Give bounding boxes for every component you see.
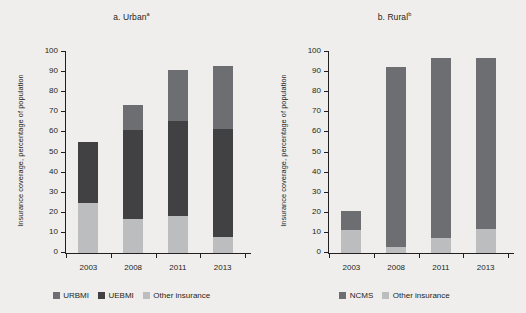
urban-x-tick-label-2011: 2011 (169, 263, 186, 272)
rural-x-tick-label-2011: 2011 (432, 263, 449, 272)
rural-y-tick-label: 10 (312, 227, 321, 236)
urban-y-axis-line (65, 52, 66, 253)
rural-x-tick (329, 253, 330, 258)
rural-y-tick: 40 (324, 172, 329, 173)
rural-bar-segment-other-insurance (431, 238, 451, 253)
urban-y-tick: 60 (61, 131, 66, 132)
rural-legend-item-ncms: NCMS (339, 291, 373, 300)
urban-bar-2011 (168, 70, 188, 253)
rural-x-tick-label-2013: 2013 (477, 263, 495, 272)
urban-x-tick (245, 253, 246, 258)
urban-y-tick: 10 (61, 232, 66, 233)
urban-y-tick-label: 40 (49, 167, 58, 176)
urban-bar-segment-urbmi (213, 66, 233, 129)
urban-legend-label: UEBMI (109, 291, 134, 300)
rural-y-tick-label: 40 (312, 167, 321, 176)
urban-y-tick: 30 (61, 192, 66, 193)
urban-bar-2013 (213, 66, 233, 253)
urban-x-tick (66, 253, 67, 258)
panel-urban: a. Urbana Insurance coverage, percentage… (0, 0, 263, 313)
rural-y-tick-label: 60 (312, 126, 321, 135)
rural-y-tick: 60 (324, 131, 329, 132)
urban-x-tick (156, 253, 157, 258)
rural-bar-segment-other-insurance (341, 230, 361, 253)
urban-y-tick-label: 100 (45, 46, 58, 55)
urban-y-tick-label: 60 (49, 126, 58, 135)
urban-bar-segment-other-insurance (168, 216, 188, 253)
rural-legend: NCMSOther insurance (263, 291, 526, 300)
urban-bar-2003 (78, 142, 98, 253)
urban-y-tick: 100 (61, 51, 66, 52)
urban-y-tick: 50 (61, 152, 66, 153)
urban-bar-segment-uebmi (78, 142, 98, 204)
rural-bar-segment-ncms (431, 58, 451, 238)
rural-y-tick-label: 80 (312, 86, 321, 95)
urban-y-tick-label: 50 (49, 147, 58, 156)
urban-legend-swatch-icon (143, 292, 150, 299)
rural-bar-segment-ncms (341, 211, 361, 230)
rural-y-tick: 100 (324, 51, 329, 52)
urban-legend-label: URBMI (63, 291, 89, 300)
urban-legend-item-urbmi: URBMI (53, 291, 89, 300)
rural-legend-label: NCMS (350, 291, 374, 300)
rural-y-tick-label: 90 (312, 66, 321, 75)
rural-y-axis-line (328, 52, 329, 253)
rural-y-tick: 50 (324, 152, 329, 153)
rural-x-tick (419, 253, 420, 258)
rural-y-tick: 10 (324, 232, 329, 233)
urban-y-tick-label: 20 (49, 207, 58, 216)
rural-y-tick: 30 (324, 192, 329, 193)
rural-bar-segment-other-insurance (476, 229, 496, 253)
rural-x-tick (463, 253, 464, 258)
urban-x-tick-label-2008: 2008 (124, 263, 142, 272)
rural-y-tick: 80 (324, 91, 329, 92)
rural-bar-2008 (386, 67, 406, 253)
rural-bar-2011 (431, 58, 451, 253)
urban-y-tick: 70 (61, 111, 66, 112)
rural-legend-item-other-insurance: Other insurance (382, 291, 449, 300)
urban-legend-swatch-icon (98, 292, 105, 299)
urban-plot-area: 01020304050607080901002003200820112013 (66, 52, 245, 253)
rural-legend-swatch-icon (382, 292, 389, 299)
rural-y-tick-label: 30 (312, 187, 321, 196)
rural-bar-2003 (341, 211, 361, 253)
rural-y-tick: 20 (324, 212, 329, 213)
urban-y-tick-label: 70 (49, 106, 58, 115)
rural-bar-2013 (476, 58, 496, 253)
urban-y-tick-label: 30 (49, 187, 58, 196)
urban-bar-segment-urbmi (168, 70, 188, 121)
urban-x-tick-label-2013: 2013 (214, 263, 232, 272)
rural-x-axis-line (328, 253, 514, 254)
urban-y-tick-label: 90 (49, 66, 58, 75)
urban-legend-item-uebmi: UEBMI (98, 291, 134, 300)
panel-rural-title-superscript: b (408, 11, 411, 17)
urban-y-tick: 80 (61, 91, 66, 92)
panel-rural: b. Ruralb Insurance coverage, percentage… (263, 0, 526, 313)
rural-x-tick (508, 253, 509, 258)
urban-bar-segment-uebmi (168, 121, 188, 216)
urban-y-tick: 90 (61, 71, 66, 72)
rural-y-tick: 70 (324, 111, 329, 112)
panel-rural-title-text: b. Rural (378, 12, 409, 22)
urban-legend-item-other-insurance: Other insurance (143, 291, 210, 300)
rural-y-tick-label: 20 (312, 207, 321, 216)
urban-x-tick (111, 253, 112, 258)
urban-bar-segment-uebmi (123, 130, 143, 219)
urban-y-tick-label: 0 (54, 247, 58, 256)
urban-y-tick: 20 (61, 212, 66, 213)
urban-bar-segment-uebmi (213, 129, 233, 237)
rural-bar-segment-ncms (476, 58, 496, 229)
urban-y-axis-label: Insurance coverage, percentage of popula… (14, 48, 26, 253)
rural-y-tick: 90 (324, 71, 329, 72)
rural-legend-label: Other insurance (393, 291, 450, 300)
rural-y-tick-label: 70 (312, 106, 321, 115)
panel-urban-title-superscript: a (147, 11, 150, 17)
rural-y-axis-label: Insurance coverage, percentage of popula… (277, 48, 289, 253)
urban-y-tick-label: 80 (49, 86, 58, 95)
urban-x-axis-line (65, 253, 251, 254)
panel-urban-title: a. Urbana (0, 12, 263, 22)
urban-y-tick: 40 (61, 172, 66, 173)
urban-bar-2008 (123, 105, 143, 253)
urban-y-tick-label: 10 (49, 227, 58, 236)
rural-x-tick-label-2003: 2003 (342, 263, 360, 272)
